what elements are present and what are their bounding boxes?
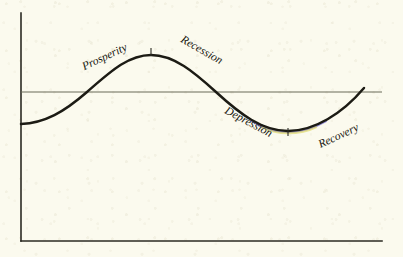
label-recovery: Recovery (315, 121, 361, 152)
label-prosperity: Prosperity (79, 40, 130, 73)
business-cycle-curve (21, 55, 364, 131)
label-recession: Recession (178, 32, 225, 66)
business-cycle-diagram: Prosperity Recession Depression Recovery (0, 0, 403, 257)
label-depression: Depression (222, 104, 275, 140)
business-cycle-figure: Prosperity Recession Depression Recovery (0, 0, 403, 257)
